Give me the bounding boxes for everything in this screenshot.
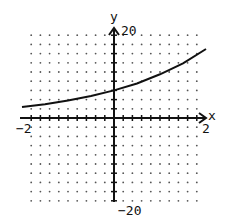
y-axis-label: y <box>110 10 118 23</box>
x-min-label: −2 <box>16 122 32 135</box>
x-max-label: 2 <box>202 122 210 135</box>
y-min-label: −20 <box>118 204 141 217</box>
y-max-label: 20 <box>121 24 137 37</box>
graph-plot <box>0 0 228 222</box>
